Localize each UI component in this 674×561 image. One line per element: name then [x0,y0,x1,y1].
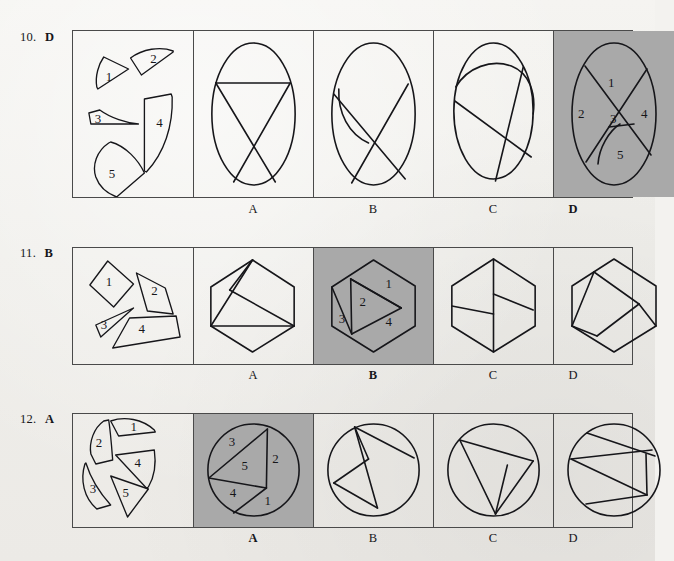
q12-option-a-piece-5: 5 [242,458,248,473]
q12-option-a-panel[interactable]: 3 2 5 4 1 [194,414,314,527]
q11-stimulus-figure: 1 2 3 4 [73,248,193,364]
q11-option-c-figure [434,248,553,364]
q11-option-d-panel[interactable] [554,248,674,364]
q10-option-a-figure [194,31,313,197]
q12-option-a-piece-4: 4 [230,485,237,500]
question-12-panels: 1 2 3 4 5 [72,413,633,528]
q11-option-d-figure [554,248,674,364]
q12-label-a: A [193,531,313,546]
question-12-number: 12. [20,412,37,426]
q11-option-b-panel[interactable]: 1 2 3 4 [314,248,434,364]
q11-piece-1-number: 1 [106,274,112,289]
q12-option-a-figure: 3 2 5 4 1 [194,414,313,527]
q11-piece-3-number: 3 [101,317,107,332]
q11-option-c-panel[interactable] [434,248,554,364]
q12-option-c-figure [434,414,553,527]
q10-label-a: A [193,202,313,217]
q12-option-b-figure [314,414,433,527]
q11-piece-2-number: 2 [151,283,157,298]
q12-option-b-panel[interactable] [314,414,434,527]
q10-piece-4-number: 4 [156,115,163,130]
q12-piece-5-number: 5 [123,485,129,500]
q10-option-d-piece-2: 2 [578,106,585,121]
q12-stimulus-panel: 1 2 3 4 5 [73,414,194,527]
q12-label-b: B [313,531,433,546]
question-10-answer: D [45,30,54,44]
q10-option-d-piece-4: 4 [641,106,648,121]
question-row-11: 11. B 1 2 3 4 [0,230,655,400]
q10-option-a-panel[interactable] [194,31,314,197]
q10-label-b: B [313,202,433,217]
q11-option-b-piece-2: 2 [360,294,366,309]
q12-option-c-panel[interactable] [434,414,554,527]
q11-label-b: B [313,368,433,383]
question-12-answer: A [45,412,54,426]
q10-label-d: D [513,202,633,217]
q10-option-c-panel[interactable] [434,31,554,197]
q12-option-a-piece-1: 1 [264,493,270,508]
q11-label-d: D [513,368,633,383]
q12-option-a-piece-3: 3 [229,434,235,449]
q12-piece-3-number: 3 [90,481,96,496]
question-row-12: 12. A 1 2 3 4 [0,400,655,561]
question-10-panels: 1 2 3 4 5 [72,30,633,198]
q11-option-a-figure [194,248,313,364]
q10-piece-3-number: 3 [95,111,101,126]
q10-option-d-panel[interactable]: 1 2 3 4 5 [554,31,674,197]
q10-option-b-figure [314,31,433,197]
q12-piece-2-number: 2 [96,435,102,450]
q10-piece-5-number: 5 [109,166,115,181]
q11-piece-4-number: 4 [138,321,145,336]
q11-option-a-panel[interactable] [194,248,314,364]
q10-stimulus-panel: 1 2 3 4 5 [73,31,194,197]
q11-option-b-piece-3: 3 [339,311,345,326]
q11-option-b-piece-1: 1 [385,276,391,291]
question-11-answer: B [45,246,54,260]
q10-option-d-piece-3: 3 [610,111,617,126]
q10-option-b-panel[interactable] [314,31,434,197]
q11-label-a: A [193,368,313,383]
q12-label-d: D [513,531,633,546]
q12-option-d-figure [554,414,674,527]
question-11-panels: 1 2 3 4 [72,247,633,365]
q10-piece-1-number: 1 [106,69,112,84]
q12-piece-1-number: 1 [131,419,137,434]
q11-option-b-figure: 1 2 3 4 [314,248,433,364]
q10-stimulus-figure: 1 2 3 4 5 [73,31,193,197]
q10-option-d-piece-1: 1 [608,75,615,90]
question-12-label: 12. A [20,412,54,427]
q12-option-a-piece-2: 2 [272,451,278,466]
question-row-10: 10. D 1 2 3 4 [0,0,655,230]
q12-piece-4-number: 4 [134,455,141,470]
question-10-number: 10. [20,30,37,44]
question-11-number: 11. [20,246,36,260]
question-10-label: 10. D [20,30,54,45]
q10-option-d-figure: 1 2 3 4 5 [554,31,674,197]
q11-option-b-piece-4: 4 [385,314,392,329]
q12-option-d-panel[interactable] [554,414,674,527]
q10-option-c-figure [434,31,553,197]
q12-stimulus-figure: 1 2 3 4 5 [73,414,193,527]
q10-piece-2-number: 2 [150,51,156,66]
q11-stimulus-panel: 1 2 3 4 [73,248,194,364]
q10-option-d-piece-5: 5 [617,147,624,162]
question-11-label: 11. B [20,246,53,261]
